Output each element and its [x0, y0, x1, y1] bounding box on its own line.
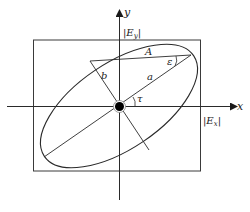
y-axis-label: y — [123, 6, 131, 19]
tau-arc — [133, 97, 135, 106]
b-label: b — [101, 70, 107, 81]
tau-label: τ — [137, 93, 143, 104]
origin-dot — [115, 102, 124, 111]
epsilon-label: ε — [167, 56, 172, 67]
x-axis-label: x — [237, 100, 244, 113]
ex-label: |Ex| — [203, 115, 221, 128]
A-label: A — [144, 46, 152, 57]
ey-label: |Ey| — [123, 27, 141, 40]
a-label: a — [147, 71, 153, 82]
polarization-ellipse-diagram: y x |Ey| |Ex| A ε b a τ — [0, 0, 250, 212]
line-A — [90, 55, 191, 61]
